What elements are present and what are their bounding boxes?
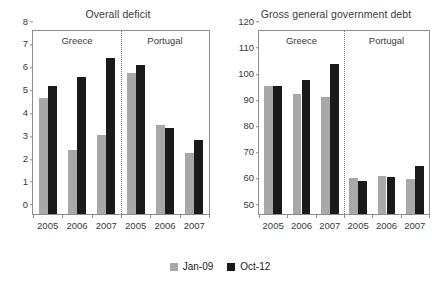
- x-axis-tick-label: 2005: [263, 221, 284, 231]
- y-axis-tick-label: 1: [23, 177, 33, 187]
- y-axis-tick-label: 70: [243, 147, 259, 157]
- bar: [185, 153, 194, 214]
- chart-panel-overall-deficit: Overall deficit 012345678200520062007200…: [0, 0, 218, 258]
- chart-panel-gross-general-government-debt: Gross general government debt 5060708090…: [218, 0, 440, 258]
- y-axis-tick-label: 4: [23, 108, 33, 118]
- x-axis-tick: [62, 214, 63, 218]
- x-axis-tick-label: 2006: [376, 221, 397, 231]
- bar: [387, 177, 396, 214]
- figure: Overall deficit 012345678200520062007200…: [0, 0, 440, 288]
- x-axis-tick: [92, 214, 93, 218]
- x-axis-tick: [121, 214, 122, 218]
- x-axis-tick: [429, 214, 430, 218]
- bar: [330, 64, 339, 214]
- bar: [156, 125, 165, 214]
- y-axis-tick-label: 7: [23, 40, 33, 50]
- y-axis-tick-label: 2: [23, 154, 33, 164]
- y-axis-tick-label: 3: [23, 131, 33, 141]
- bar: [358, 181, 367, 214]
- x-axis-tick: [372, 214, 373, 218]
- y-axis-tick-label: 80: [243, 121, 259, 131]
- y-axis-tick-label: 5: [23, 85, 33, 95]
- bar: [106, 58, 115, 214]
- y-axis-tick-label: 0: [23, 200, 33, 210]
- plot-area: 5060708090100110120200520062007200520062…: [259, 31, 429, 214]
- plot-frame: 012345678200520062007200520062007GreeceP…: [32, 30, 210, 215]
- bar: [48, 86, 57, 214]
- bar: [349, 178, 358, 214]
- legend-item-oct-12: Oct-12: [227, 262, 270, 272]
- y-axis-tick-label: 6: [23, 63, 33, 73]
- group-label-greece: Greece: [286, 35, 317, 46]
- legend-item-jan-09: Jan-09: [170, 262, 214, 272]
- bar: [293, 94, 302, 214]
- legend-label: Jan-09: [183, 262, 214, 272]
- x-axis-tick: [150, 214, 151, 218]
- bar: [127, 73, 136, 214]
- group-divider: [121, 31, 122, 214]
- plot-area: 012345678200520062007200520062007GreeceP…: [33, 31, 209, 214]
- x-axis-tick-label: 2005: [348, 221, 369, 231]
- x-axis-tick: [344, 214, 345, 218]
- bar: [77, 77, 86, 214]
- bar: [68, 150, 77, 214]
- group-label-greece: Greece: [61, 35, 92, 46]
- legend-swatch-icon: [170, 263, 178, 271]
- x-axis-tick: [287, 214, 288, 218]
- x-axis-tick: [401, 214, 402, 218]
- group-label-portugal: Portugal: [147, 35, 182, 46]
- x-axis-tick: [259, 214, 260, 218]
- x-axis-tick-label: 2006: [291, 221, 312, 231]
- x-axis-tick-label: 2007: [96, 221, 117, 231]
- bar: [302, 80, 311, 214]
- y-axis-tick-label: 100: [238, 69, 259, 79]
- group-label-portugal: Portugal: [369, 35, 404, 46]
- plot-frame: 5060708090100110120200520062007200520062…: [258, 30, 430, 215]
- x-axis-tick-label: 2007: [319, 221, 340, 231]
- x-axis-tick: [33, 214, 34, 218]
- y-axis-tick-label: 60: [243, 174, 259, 184]
- x-axis-tick-label: 2007: [404, 221, 425, 231]
- bar: [406, 179, 415, 214]
- bar: [194, 140, 203, 214]
- x-axis-tick-label: 2006: [154, 221, 175, 231]
- y-axis-tick-label: 90: [243, 95, 259, 105]
- bar: [97, 135, 106, 214]
- bar: [273, 86, 282, 214]
- legend-swatch-icon: [227, 263, 235, 271]
- group-divider: [344, 31, 345, 214]
- bar: [378, 176, 387, 214]
- y-axis-tick-label: 110: [239, 43, 259, 53]
- y-axis-tick-label: 50: [243, 200, 259, 210]
- bar: [39, 98, 48, 214]
- bar: [136, 65, 145, 214]
- legend: Jan-09Oct-12: [0, 262, 440, 272]
- bar: [264, 86, 273, 214]
- x-axis-tick-label: 2005: [125, 221, 146, 231]
- y-axis-tick-label: 8: [23, 17, 33, 27]
- x-axis-tick: [209, 214, 210, 218]
- bar: [321, 97, 330, 214]
- bar: [415, 166, 424, 214]
- bar: [165, 128, 174, 214]
- x-axis-tick: [180, 214, 181, 218]
- x-axis-tick-label: 2005: [37, 221, 58, 231]
- y-axis-tick-label: 120: [238, 17, 259, 27]
- x-axis-tick: [316, 214, 317, 218]
- x-axis-tick-label: 2007: [184, 221, 205, 231]
- legend-label: Oct-12: [240, 262, 270, 272]
- x-axis-tick-label: 2006: [66, 221, 87, 231]
